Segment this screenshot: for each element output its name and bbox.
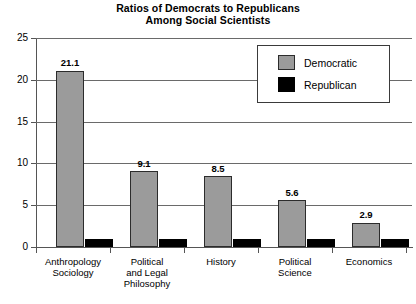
x-axis-label-anthropology-sociology: Anthropology Sociology (36, 256, 110, 278)
legend-swatch-democratic-icon (278, 55, 295, 70)
y-axis-label-0: 0 (6, 242, 28, 252)
bar-chart: Ratios of Democrats to Republicans Among… (0, 0, 416, 304)
x-axis-label-political-and-legal-philosophy-line-3: Philosophy (110, 278, 184, 289)
x-axis-label-economics-line-1: Economics (332, 256, 406, 267)
x-axis-label-political-science-line-1: Political (258, 256, 332, 267)
x-axis-label-political-science: Political Science (258, 256, 332, 278)
x-axis-label-economics: Economics (332, 256, 406, 267)
x-tick-mark-3 (258, 247, 259, 253)
x-tick-mark-2 (184, 247, 185, 253)
x-axis-label-political-science-line-2: Science (258, 267, 332, 278)
x-tick-mark-1 (110, 247, 111, 253)
x-axis-label-history-line-1: History (184, 256, 258, 267)
y-axis-label-10: 10 (6, 158, 28, 168)
x-axis-label-anthropology-sociology-line-1: Anthropology (36, 256, 110, 267)
x-tick-mark-4 (332, 247, 333, 253)
legend-label-democratic: Democratic (304, 57, 357, 69)
chart-legend: Democratic Republican (257, 45, 390, 103)
x-tick-mark-5 (406, 247, 407, 253)
y-axis-label-25: 25 (6, 33, 28, 43)
y-axis-label-20: 20 (6, 75, 28, 85)
legend-swatch-republican-icon (278, 77, 295, 92)
x-axis-label-political-and-legal-philosophy-line-2: and Legal (110, 267, 184, 278)
y-axis-label-15: 15 (6, 117, 28, 127)
x-axis-label-anthropology-sociology-line-2: Sociology (36, 267, 110, 278)
y-axis-label-5: 5 (6, 200, 28, 210)
x-axis-label-history: History (184, 256, 258, 267)
x-tick-mark-0 (36, 247, 37, 253)
x-axis-label-political-and-legal-philosophy-line-1: Political (110, 256, 184, 267)
legend-label-republican: Republican (304, 79, 357, 91)
x-axis-label-political-and-legal-philosophy: Political and Legal Philosophy (110, 256, 184, 289)
